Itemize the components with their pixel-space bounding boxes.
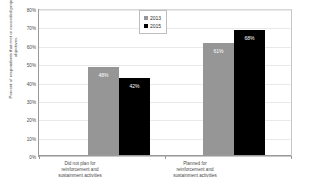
- legend-label: 2015: [150, 23, 161, 29]
- legend-label: 2013: [150, 15, 161, 21]
- chart-legend: 2013 2015: [139, 10, 167, 34]
- chart-screenshot: 48% 42% 61% 68% 80% 70% 60% 50% 40% 30% …: [0, 0, 317, 191]
- chart-title-strip: [0, 0, 317, 5]
- bar-value-label: 42%: [119, 83, 150, 89]
- bar-value-label: 61%: [203, 48, 234, 54]
- legend-swatch-icon: [144, 16, 148, 20]
- x-axis-tick: [165, 156, 166, 159]
- legend-item-2015: 2015: [144, 22, 161, 30]
- y-tick-label: 10%: [6, 136, 36, 141]
- y-tick-label: 0%: [6, 155, 36, 160]
- x-axis-tick: [291, 156, 292, 159]
- x-category-label-0: Did not plan for reinforcement and susta…: [40, 161, 120, 179]
- bar-2013-planned: 61%: [203, 43, 234, 155]
- x-category-label-1: Planned for reinforcement and sustainmen…: [155, 161, 235, 179]
- bar-value-label: 68%: [234, 35, 265, 41]
- x-axis-tick: [39, 156, 40, 159]
- bar-2015-planned: 68%: [234, 30, 265, 155]
- bar-2013-did-not-plan: 48%: [88, 67, 119, 155]
- category-line: sustainment activities: [40, 173, 120, 179]
- bar-value-label: 48%: [88, 72, 119, 78]
- y-tick-label: 20%: [6, 118, 36, 123]
- legend-swatch-icon: [144, 24, 148, 28]
- y-axis-title: Percent of respondents that met or excee…: [8, 0, 19, 106]
- bar-2015-did-not-plan: 42%: [119, 78, 150, 155]
- y-axis-line: [38, 9, 39, 157]
- legend-item-2013: 2013: [144, 14, 161, 22]
- category-line: sustainment activities: [155, 173, 235, 179]
